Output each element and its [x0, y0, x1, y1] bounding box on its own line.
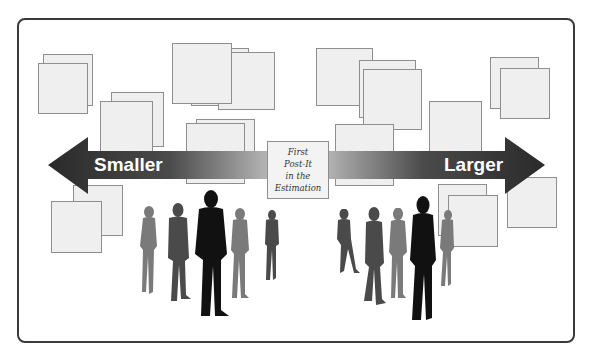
sticky-note	[500, 68, 550, 119]
sticky-note	[172, 43, 232, 104]
sticky-note	[38, 63, 88, 114]
smaller-label: Smaller	[94, 154, 163, 176]
person-silhouette-icon	[362, 207, 388, 307]
person-silhouette-icon	[263, 210, 281, 282]
person-silhouette-icon	[138, 206, 160, 296]
sticky-note	[363, 69, 422, 130]
first-post-it-note: First Post-It in the Estimation	[267, 141, 329, 199]
person-silhouette-icon	[438, 210, 456, 288]
person-silhouette-icon	[387, 208, 409, 300]
person-silhouette-icon	[229, 208, 251, 300]
sticky-note	[51, 201, 102, 253]
larger-label: Larger	[444, 154, 503, 176]
person-silhouette-icon	[165, 203, 193, 303]
larger-arrow-icon	[325, 137, 545, 194]
person-silhouette-icon	[334, 209, 362, 275]
first-post-it-text: First Post-It in the Estimation	[275, 146, 322, 194]
person-silhouette-icon	[193, 190, 229, 320]
person-silhouette-icon	[408, 196, 438, 322]
